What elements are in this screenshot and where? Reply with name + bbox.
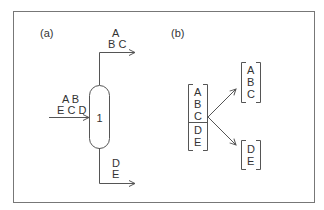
top-product-arrow: [100, 53, 136, 86]
panel-a-label: (a): [40, 27, 53, 39]
feed-stack-item: A: [194, 86, 202, 98]
feed-stack-item: E: [194, 136, 201, 148]
bottom-group: D E: [242, 141, 261, 170]
top-group-item: C: [247, 88, 255, 100]
feed-stack-item: D: [194, 124, 202, 136]
top-group-item: B: [247, 76, 254, 88]
bottom-product-line2: E: [112, 168, 119, 180]
bottom-group-item: E: [247, 155, 254, 167]
panel-b-label: (b): [171, 27, 184, 39]
diagram: (a) A B C A B E C D 1 D E (b) A B C D E …: [0, 0, 324, 210]
column-label: 1: [97, 112, 103, 124]
top-group: A B C: [242, 63, 261, 103]
feed-stack-item: B: [194, 98, 201, 110]
split-arrow-top: [208, 89, 236, 117]
bottom-group-item: D: [247, 143, 255, 155]
feed-stack: A B C D E: [189, 85, 208, 151]
top-group-item: A: [247, 64, 255, 76]
feed-line2: E C D: [57, 104, 86, 116]
feed-stack-item: C: [194, 110, 202, 122]
split-arrow-bottom: [208, 117, 236, 145]
top-product-line2: B C: [108, 38, 126, 50]
